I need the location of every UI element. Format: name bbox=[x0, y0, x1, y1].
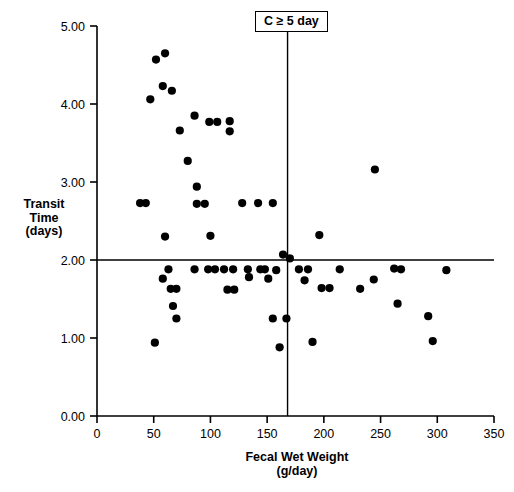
data-point bbox=[169, 302, 177, 310]
data-point bbox=[172, 314, 180, 322]
x-axis-title: Fecal Wet Weight (g/day) bbox=[157, 450, 437, 478]
data-point bbox=[213, 118, 221, 126]
data-point bbox=[393, 300, 401, 308]
data-point bbox=[226, 117, 234, 125]
data-point bbox=[315, 231, 323, 239]
data-point bbox=[206, 232, 214, 240]
data-point bbox=[220, 265, 228, 273]
x-axis-title-main: Fecal Wet Weight bbox=[157, 450, 437, 464]
axis-layer bbox=[90, 26, 494, 423]
y-axis-tick-label: 0.00 bbox=[61, 410, 85, 424]
x-axis-tick-label: 250 bbox=[370, 427, 391, 441]
data-point bbox=[424, 312, 432, 320]
data-point bbox=[245, 273, 253, 281]
data-point bbox=[295, 265, 303, 273]
y-axis-tick-label: 5.00 bbox=[61, 20, 85, 34]
data-point bbox=[152, 55, 160, 63]
y-axis-title: Transit Time (days) bbox=[8, 198, 80, 239]
x-axis-tick-label: 100 bbox=[200, 427, 221, 441]
data-point bbox=[269, 199, 277, 207]
data-point bbox=[254, 199, 262, 207]
y-axis-tick-label: 3.00 bbox=[61, 176, 85, 190]
data-point bbox=[190, 265, 198, 273]
tick-label-layer: 0.001.002.003.004.005.000501001502002503… bbox=[61, 20, 505, 442]
data-points-layer bbox=[136, 49, 450, 351]
y-axis-tick-label: 4.00 bbox=[61, 98, 85, 112]
data-point bbox=[261, 265, 269, 273]
data-point bbox=[168, 87, 176, 95]
reference-line-layer bbox=[97, 26, 494, 416]
x-axis-title-sub: (g/day) bbox=[157, 464, 437, 478]
chart-svg: 0.001.002.003.004.005.000501001502002503… bbox=[0, 0, 514, 492]
y-axis-tick-label: 2.00 bbox=[61, 254, 85, 268]
data-point bbox=[269, 314, 277, 322]
data-point bbox=[397, 265, 405, 273]
data-point bbox=[159, 275, 167, 283]
data-point bbox=[201, 200, 209, 208]
data-point bbox=[356, 285, 364, 293]
data-point bbox=[264, 275, 272, 283]
y-axis-title-line-1: Transit bbox=[8, 198, 80, 212]
data-point bbox=[193, 183, 201, 191]
x-axis-tick-label: 50 bbox=[147, 427, 161, 441]
data-point bbox=[184, 157, 192, 165]
data-point bbox=[371, 165, 379, 173]
y-axis-title-line-3: (days) bbox=[8, 225, 80, 239]
x-axis-tick-label: 0 bbox=[94, 427, 101, 441]
data-point bbox=[172, 285, 180, 293]
data-point bbox=[442, 266, 450, 274]
data-point bbox=[151, 339, 159, 347]
data-point bbox=[238, 199, 246, 207]
data-point bbox=[176, 126, 184, 134]
x-axis-tick-label: 300 bbox=[427, 427, 448, 441]
data-point bbox=[161, 49, 169, 57]
data-point bbox=[193, 200, 201, 208]
data-point bbox=[159, 82, 167, 90]
data-point bbox=[226, 127, 234, 135]
data-point bbox=[230, 286, 238, 294]
data-point bbox=[429, 337, 437, 345]
data-point bbox=[370, 275, 378, 283]
data-point bbox=[286, 254, 294, 262]
threshold-annotation-label: C ≥ 5 day bbox=[264, 14, 319, 28]
x-axis-tick-label: 350 bbox=[484, 427, 505, 441]
data-point bbox=[142, 199, 150, 207]
scatter-plot-figure: 0.001.002.003.004.005.000501001502002503… bbox=[0, 0, 514, 492]
data-point bbox=[282, 314, 290, 322]
data-point bbox=[244, 265, 252, 273]
data-point bbox=[308, 338, 316, 346]
y-axis-title-line-2: Time bbox=[8, 212, 80, 226]
plot-canvas: 0.001.002.003.004.005.000501001502002503… bbox=[0, 0, 514, 492]
data-point bbox=[317, 284, 325, 292]
data-point bbox=[336, 265, 344, 273]
x-axis-tick-label: 150 bbox=[257, 427, 278, 441]
data-point bbox=[325, 284, 333, 292]
data-point bbox=[272, 266, 280, 274]
data-point bbox=[164, 265, 172, 273]
data-point bbox=[161, 233, 169, 241]
y-axis-tick-label: 1.00 bbox=[61, 332, 85, 346]
data-point bbox=[211, 265, 219, 273]
data-point bbox=[190, 112, 198, 120]
x-axis-tick-label: 200 bbox=[313, 427, 334, 441]
data-point bbox=[229, 265, 237, 273]
data-point bbox=[300, 276, 308, 284]
data-point bbox=[146, 95, 154, 103]
data-point bbox=[205, 118, 213, 126]
data-point bbox=[304, 265, 312, 273]
threshold-annotation-box: C ≥ 5 day bbox=[255, 11, 328, 32]
data-point bbox=[276, 343, 284, 351]
